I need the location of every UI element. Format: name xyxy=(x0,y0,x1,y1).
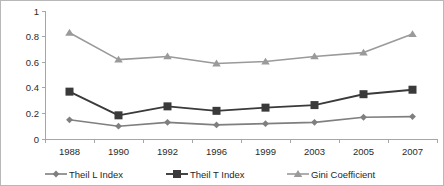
y-tick-label: 0.6 xyxy=(26,57,39,68)
legend-item-theil-l-index[interactable]: Theil L Index xyxy=(45,169,123,180)
series-layer xyxy=(65,29,417,130)
y-tick-label: 1 xyxy=(34,6,39,17)
data-point-square-marker xyxy=(173,170,181,178)
legend-item-gini-coefficient[interactable]: Gini Coefficient xyxy=(287,169,376,180)
data-point-square-marker xyxy=(311,101,319,109)
data-point-triangle-marker xyxy=(408,30,417,37)
data-point-diamond-marker xyxy=(164,119,171,126)
y-axis: 00.20.40.60.81 xyxy=(26,6,45,145)
x-axis: 19881990199219961999200320052007 xyxy=(45,139,437,157)
data-point-diamond-marker xyxy=(311,119,318,126)
x-tick-label: 1996 xyxy=(206,146,227,157)
x-tick-label: 2007 xyxy=(402,146,423,157)
data-point-square-marker xyxy=(262,104,270,112)
x-tick-label: 1999 xyxy=(255,146,276,157)
data-point-square-marker xyxy=(213,107,221,115)
data-point-triangle-marker xyxy=(65,29,74,36)
series-gini-coefficient xyxy=(65,29,417,67)
data-point-diamond-marker xyxy=(409,113,416,120)
chart-legend: Theil L IndexTheil T IndexGini Coefficie… xyxy=(45,169,376,180)
legend-label: Gini Coefficient xyxy=(311,169,376,180)
x-tick-label: 2003 xyxy=(304,146,325,157)
legend-label: Theil L Index xyxy=(69,169,123,180)
line-chart-figure: 00.20.40.60.81 1988199019921996199920032… xyxy=(0,0,444,186)
data-point-square-marker xyxy=(164,102,172,110)
x-tick-label: 2005 xyxy=(353,146,374,157)
data-point-diamond-marker xyxy=(262,120,269,127)
chart-canvas: 00.20.40.60.81 1988199019921996199920032… xyxy=(1,1,444,186)
data-point-square-marker xyxy=(66,88,74,96)
x-tick-label: 1988 xyxy=(59,146,80,157)
x-tick-label: 1990 xyxy=(108,146,129,157)
data-point-square-marker xyxy=(409,86,417,94)
legend-label: Theil T Index xyxy=(190,169,245,180)
series-line xyxy=(70,33,413,64)
data-point-diamond-marker xyxy=(213,122,220,129)
y-tick-label: 0.4 xyxy=(26,82,39,93)
x-tick-label: 1992 xyxy=(157,146,178,157)
legend-item-theil-t-index[interactable]: Theil T Index xyxy=(166,169,245,180)
y-tick-label: 0.2 xyxy=(26,108,39,119)
data-point-square-marker xyxy=(360,90,368,98)
y-tick-label: 0 xyxy=(34,134,39,145)
data-point-diamond-marker xyxy=(360,114,367,121)
data-point-diamond-marker xyxy=(66,116,73,123)
data-point-diamond-marker xyxy=(53,171,60,178)
data-point-diamond-marker xyxy=(115,123,122,130)
data-point-square-marker xyxy=(115,111,123,119)
y-tick-label: 0.8 xyxy=(26,31,39,42)
